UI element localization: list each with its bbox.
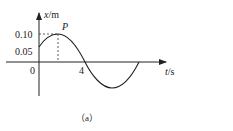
displacement-time-diagram: x/m 0.10 0.05 P 0 4 t/s （a） (0, 0, 233, 131)
x-axis-label: t/s (165, 66, 175, 77)
y-axis-label: x/m (43, 9, 59, 20)
x-tick-4: 4 (79, 65, 84, 76)
figure-caption: （a） (76, 113, 98, 123)
point-p-label: P (61, 21, 68, 32)
origin-label: 0 (30, 65, 35, 76)
y-tick-0.10: 0.10 (15, 29, 33, 40)
sine-curve (39, 34, 139, 88)
y-tick-0.05: 0.05 (15, 46, 33, 57)
